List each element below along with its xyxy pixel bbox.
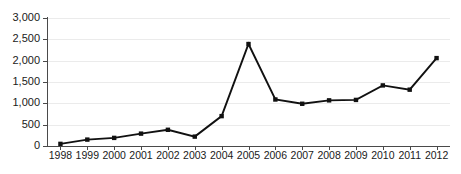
- x-tick-label: 1998: [49, 149, 73, 161]
- y-tick-label: 2,000: [12, 54, 40, 66]
- data-point-marker: [408, 87, 412, 91]
- x-tick-label: 2010: [371, 149, 395, 161]
- data-point-marker: [166, 128, 170, 132]
- data-point-marker: [381, 83, 385, 87]
- data-point-marker: [58, 142, 62, 146]
- y-axis-group: [43, 17, 48, 147]
- data-point-marker: [246, 42, 250, 46]
- y-tick-label: 0: [34, 139, 40, 151]
- chart-plot-area: 05001,0001,5002,0002,5003,000 1998199920…: [0, 0, 461, 174]
- y-tick-label: 2,500: [12, 32, 40, 44]
- x-tick-label: 2009: [344, 149, 368, 161]
- x-tick-labels-group: 1998199920002001200220032004200520062007…: [49, 149, 449, 161]
- x-tick-label: 1999: [76, 149, 100, 161]
- gridlines-group: [47, 19, 450, 126]
- data-point-marker: [85, 137, 89, 141]
- x-tick-label: 2002: [156, 149, 180, 161]
- x-tick-label: 2000: [102, 149, 126, 161]
- data-point-marker: [139, 131, 143, 135]
- line-chart-figure: 05001,0001,5002,0002,5003,000 1998199920…: [0, 0, 461, 174]
- data-point-marker: [193, 134, 197, 138]
- series-line: [60, 44, 436, 144]
- x-tick-label: 2007: [291, 149, 315, 161]
- data-point-marker: [327, 98, 331, 102]
- x-tick-label: 2006: [264, 149, 288, 161]
- x-tick-label: 2011: [398, 149, 421, 161]
- x-tick-label: 2004: [210, 149, 234, 161]
- data-series-group: [60, 44, 436, 144]
- x-tick-label: 2005: [237, 149, 261, 161]
- y-tick-label: 500: [22, 118, 40, 130]
- y-tick-label: 1,500: [12, 75, 40, 87]
- data-point-marker: [300, 102, 304, 106]
- y-tick-label: 3,000: [12, 11, 40, 23]
- y-tick-label: 1,000: [12, 96, 40, 108]
- x-tick-label: 2003: [183, 149, 207, 161]
- x-tick-label: 2001: [129, 149, 153, 161]
- data-point-marker: [354, 98, 358, 102]
- y-tick-labels-group: 05001,0001,5002,0002,5003,000: [12, 11, 40, 151]
- data-point-marker: [219, 114, 223, 118]
- data-point-marker: [112, 136, 116, 140]
- x-tick-label: 2012: [425, 149, 449, 161]
- data-point-marker: [273, 97, 277, 101]
- data-point-marker: [434, 56, 438, 60]
- data-markers-group: [58, 42, 439, 146]
- x-tick-label: 2008: [317, 149, 341, 161]
